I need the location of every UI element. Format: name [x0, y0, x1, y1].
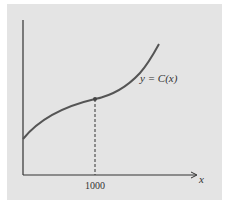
curve-label: y = C(x) [139, 72, 178, 85]
cost-curve [23, 44, 159, 139]
x-axis-label: x [198, 173, 204, 185]
curve-point [93, 97, 97, 101]
tick-label-1000: 1000 [85, 180, 105, 191]
chart-svg: y = C(x) x 1000 [0, 0, 231, 210]
